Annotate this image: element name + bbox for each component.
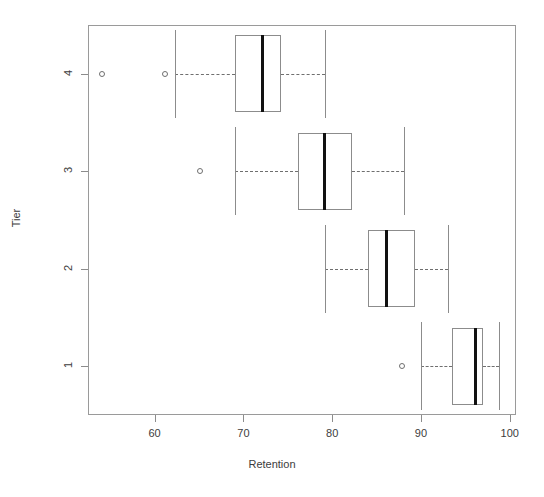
plot-panel <box>88 25 516 415</box>
y-tick-label: 1 <box>62 355 74 375</box>
box-rect <box>368 230 415 307</box>
whisker-lower <box>235 171 297 172</box>
median-line <box>474 328 477 405</box>
y-tick-mark <box>81 74 88 75</box>
x-tick-label: 100 <box>490 427 530 439</box>
whisker-cap-upper <box>499 322 500 410</box>
x-tick-mark <box>155 415 156 422</box>
whisker-cap-lower <box>325 225 326 313</box>
whisker-lower <box>175 74 234 75</box>
y-axis-title: Tier <box>10 188 22 248</box>
x-tick-mark <box>421 415 422 422</box>
whisker-lower <box>421 366 452 367</box>
whisker-lower <box>325 269 368 270</box>
x-tick-mark <box>332 415 333 422</box>
boxplot-figure: 60708090100 4321 Retention Tier <box>0 0 544 497</box>
box-rect <box>452 328 483 405</box>
outlier-point <box>399 363 405 369</box>
y-tick-mark <box>81 269 88 270</box>
x-tick-label: 60 <box>135 427 175 439</box>
x-tick-label: 70 <box>223 427 263 439</box>
x-axis-title: Retention <box>0 458 544 470</box>
whisker-cap-upper <box>448 225 449 313</box>
y-tick-label: 4 <box>62 63 74 83</box>
y-tick-mark <box>81 171 88 172</box>
whisker-upper <box>352 171 404 172</box>
whisker-cap-lower <box>175 30 176 118</box>
whisker-cap-lower <box>421 322 422 410</box>
median-line <box>385 230 388 307</box>
whisker-upper <box>415 269 448 270</box>
median-line <box>261 35 264 112</box>
whisker-cap-upper <box>325 30 326 118</box>
box-rect <box>235 35 281 112</box>
x-tick-label: 90 <box>401 427 441 439</box>
median-line <box>323 133 326 210</box>
x-tick-mark <box>243 415 244 422</box>
whisker-cap-lower <box>235 127 236 215</box>
whisker-cap-upper <box>404 127 405 215</box>
whisker-upper <box>483 366 499 367</box>
y-tick-label: 3 <box>62 160 74 180</box>
x-tick-label: 80 <box>312 427 352 439</box>
y-tick-label: 2 <box>62 258 74 278</box>
whisker-upper <box>281 74 325 75</box>
x-tick-mark <box>510 415 511 422</box>
outlier-point <box>197 168 203 174</box>
y-tick-mark <box>81 366 88 367</box>
outlier-point <box>99 71 105 77</box>
outlier-point <box>162 71 168 77</box>
